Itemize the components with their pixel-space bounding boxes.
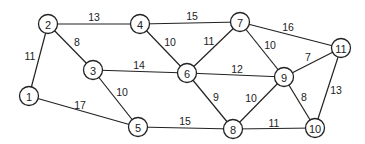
- edge-7-9: [240, 22, 284, 77]
- node-label: 3: [90, 65, 96, 77]
- node-6: 6: [178, 64, 197, 83]
- node-2: 2: [39, 15, 58, 34]
- node-4: 4: [131, 15, 150, 34]
- edge-weight-label: 12: [231, 63, 243, 75]
- edge-4-6: [140, 24, 187, 73]
- edge-weight-label: 16: [282, 21, 294, 33]
- weighted-graph-diagram: 1117138141015101511129101671081113 12345…: [0, 0, 365, 144]
- edge-weight-label: 13: [330, 84, 342, 96]
- edge-weight-label: 10: [264, 39, 276, 51]
- node-9: 9: [275, 68, 294, 87]
- edge-weight-label: 11: [269, 117, 280, 129]
- edge-3-5: [93, 70, 138, 127]
- edge-weight-label: 7: [305, 51, 311, 63]
- node-1: 1: [20, 87, 39, 106]
- node-label: 4: [137, 19, 143, 31]
- edge-4-7: [140, 22, 240, 24]
- edge-weight-label: 11: [25, 50, 36, 62]
- edge-weight-label: 8: [74, 36, 80, 48]
- node-5: 5: [129, 118, 148, 137]
- node-label: 11: [335, 43, 346, 55]
- edge-weight-label: 10: [245, 92, 257, 104]
- edge-weight-label: 15: [179, 115, 191, 127]
- node-7: 7: [231, 13, 250, 32]
- edge-weight-label: 11: [204, 35, 215, 47]
- edge-weight-label: 15: [186, 10, 198, 22]
- edge-5-8: [138, 127, 233, 129]
- node-label: 8: [230, 124, 236, 136]
- edge-6-8: [187, 73, 233, 129]
- node-8: 8: [224, 120, 243, 139]
- node-label: 6: [184, 68, 190, 80]
- edge-weight-label: 13: [88, 11, 100, 23]
- node-3: 3: [84, 61, 103, 80]
- edge-weight-label: 10: [116, 86, 128, 98]
- node-label: 7: [237, 17, 243, 29]
- edge-weight-label: 17: [74, 99, 86, 111]
- edge-weight-label: 10: [164, 36, 176, 48]
- node-10: 10: [306, 119, 325, 138]
- edge-weight-label: 8: [301, 91, 307, 103]
- node-label: 10: [309, 123, 321, 135]
- node-label: 9: [281, 72, 287, 84]
- node-11: 11: [332, 39, 351, 58]
- node-label: 2: [45, 19, 51, 31]
- edge-weight-label: 9: [213, 91, 219, 103]
- node-label: 5: [135, 122, 141, 134]
- node-label: 1: [26, 91, 32, 103]
- edge-weight-label: 14: [133, 59, 145, 71]
